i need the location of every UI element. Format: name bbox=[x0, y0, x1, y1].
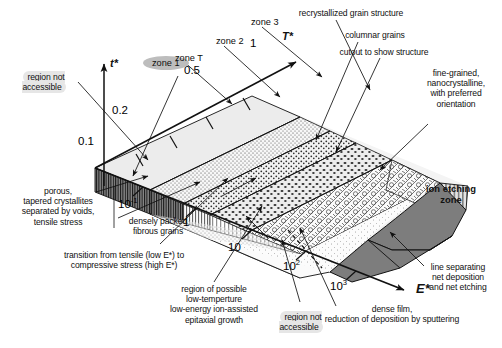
annotation-dense-film: dense film, reduction of deposition by s… bbox=[284, 304, 500, 324]
T-star-axis-label: T* bbox=[282, 30, 293, 42]
leader-cutout bbox=[336, 58, 380, 152]
ion-etching-zone-label: ion etching zone bbox=[415, 183, 487, 205]
structure-zone-diagram: t* T* E* 0.1 0.2 0.5 1 10-1 1 10 102 103… bbox=[0, 0, 502, 348]
zone-2-label: zone 2 bbox=[216, 36, 244, 46]
annotation-fine-grained: fine-grained, nanocrystalline, with pref… bbox=[412, 68, 500, 109]
t-star-axis-label: t* bbox=[110, 57, 118, 69]
tick-E-1e2: 102 bbox=[283, 258, 300, 272]
leader-region-not-accessible-left bbox=[78, 82, 148, 160]
zone-3-label: zone 3 bbox=[251, 17, 279, 27]
tick-E-1e-1: 10-1 bbox=[118, 196, 138, 210]
annotation-densely-packed: densely packed fibrous grains bbox=[114, 216, 202, 236]
tick-E-10: 10 bbox=[228, 241, 241, 253]
annotation-line-separating: line separating net deposition and net e… bbox=[414, 262, 502, 293]
zone-T-label: zone T bbox=[175, 53, 203, 63]
annotation-cutout: cutout to show structure bbox=[318, 47, 450, 57]
annotation-recrystallized: recrystallized grain structure bbox=[283, 8, 419, 18]
tick-T-1: 1 bbox=[250, 37, 256, 49]
annotation-transition: transition from tensile (low E*) to comp… bbox=[24, 250, 224, 270]
annotation-region-not-accessible-left: region not accessible bbox=[8, 62, 80, 93]
tick-E-1e3: 103 bbox=[330, 278, 347, 292]
tick-T-0.1: 0.1 bbox=[78, 135, 94, 147]
tick-T-0.2: 0.2 bbox=[112, 104, 128, 116]
annotation-porous: porous, tapered crystallites separated b… bbox=[2, 186, 114, 227]
annotation-columnar-grains: columnar grains bbox=[320, 30, 430, 40]
leader-zone2 bbox=[224, 46, 280, 97]
